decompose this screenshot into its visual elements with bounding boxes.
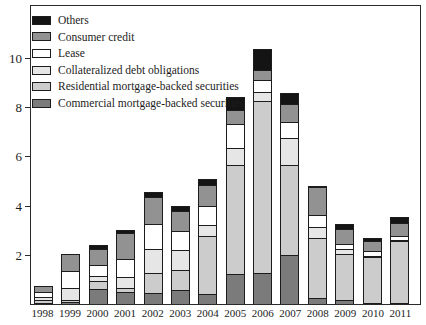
legend-swatch-icon (32, 16, 51, 25)
legend: OthersConsumer creditLeaseCollateralized… (32, 12, 244, 112)
bar-segment (390, 223, 409, 237)
bar-segment (144, 249, 163, 274)
bar-2008 (308, 186, 327, 304)
bar-segment (335, 254, 354, 301)
legend-item: Residential mortgage-backed securities (32, 78, 244, 95)
legend-label: Others (58, 14, 89, 27)
legend-label: Consumer credit (58, 31, 134, 44)
bar-segment (89, 249, 108, 265)
bar-2006 (253, 49, 272, 304)
y-tick-label: 6 (0, 150, 22, 163)
x-tick-label: 2010 (363, 307, 382, 319)
y-tick-mark (25, 255, 30, 256)
bar-segment (171, 211, 190, 232)
bar-segment (308, 215, 327, 226)
bar-segment (198, 236, 217, 294)
bar-segment (253, 92, 272, 101)
bar-segment (308, 298, 327, 304)
bar-2011 (390, 217, 409, 304)
bar-segment (198, 294, 217, 304)
bar-segment (61, 288, 80, 300)
bar-segment (34, 303, 53, 304)
bar-segment (253, 273, 272, 304)
legend-label: Commercial mortgage-backed securities (58, 97, 244, 110)
bar-segment (308, 187, 327, 215)
bar-2007 (280, 93, 299, 305)
legend-swatch-icon (32, 99, 51, 108)
y-tick-label: 4 (0, 200, 22, 213)
figure: OthersConsumer creditLeaseCollateralized… (0, 0, 426, 325)
bar-segment (253, 80, 272, 92)
x-tick-label: 2008 (308, 307, 327, 319)
legend-item: Collateralized debt obligations (32, 62, 244, 79)
x-axis: 1998199920002001200220032004200520062007… (30, 307, 421, 319)
bar-2002 (144, 192, 163, 304)
legend-label: Collateralized debt obligations (58, 64, 199, 77)
bar-segment (116, 277, 135, 288)
bar-segment (390, 241, 409, 303)
bar-segment (144, 224, 163, 249)
legend-swatch-icon (32, 82, 51, 91)
x-tick-label: 2009 (336, 307, 355, 319)
legend-swatch-icon (32, 49, 51, 58)
bar-segment (280, 122, 299, 138)
bar-segment (61, 302, 80, 304)
bar-segment (363, 241, 382, 251)
bar-segment (171, 290, 190, 304)
bar-2003 (171, 206, 190, 304)
bar-segment (226, 274, 245, 304)
bar-segment (253, 101, 272, 273)
legend-swatch-icon (32, 32, 51, 41)
bar-2004 (198, 179, 217, 304)
x-tick-label: 2001 (116, 307, 135, 319)
legend-item: Others (32, 12, 244, 29)
y-tick-mark (25, 107, 30, 108)
y-tick-label: 2 (0, 249, 22, 262)
bar-segment (226, 124, 245, 147)
bar-2001 (116, 230, 135, 304)
bar-segment (89, 289, 108, 304)
y-tick-label: 10 (0, 52, 22, 65)
bar-segment (226, 148, 245, 165)
bar-segment (280, 93, 299, 104)
bar-segment (226, 110, 245, 125)
x-tick-label: 2011 (391, 307, 410, 319)
bar-2010 (363, 238, 382, 304)
bar-segment (308, 227, 327, 238)
bar-segment (280, 138, 299, 165)
bar-segment (61, 271, 80, 288)
plot-area: OthersConsumer creditLeaseCollateralized… (30, 5, 421, 305)
bar-segment (144, 273, 163, 293)
bar-segment (144, 293, 163, 304)
x-tick-label: 2004 (198, 307, 217, 319)
bar-segment (280, 165, 299, 255)
x-tick-label: 2000 (88, 307, 107, 319)
bar-1999 (61, 254, 80, 304)
bar-segment (280, 255, 299, 304)
bar-segment (390, 303, 409, 304)
bar-segment (363, 257, 382, 303)
bar-segment (280, 104, 299, 122)
bar-segment (335, 229, 354, 244)
bar-segment (89, 281, 108, 290)
legend-item: Lease (32, 45, 244, 62)
y-tick-mark (25, 58, 30, 59)
x-tick-label: 2003 (171, 307, 190, 319)
x-tick-label: 2005 (226, 307, 245, 319)
bar-segment (198, 185, 217, 206)
y-tick-mark (25, 206, 30, 207)
bar-1998 (34, 286, 53, 304)
legend-item: Consumer credit (32, 29, 244, 46)
x-tick-label: 2006 (253, 307, 272, 319)
legend-label: Residential mortgage-backed securities (58, 80, 239, 93)
bar-segment (144, 197, 163, 224)
bar-segment (308, 238, 327, 298)
legend-swatch-icon (32, 66, 51, 75)
x-tick-label: 2007 (281, 307, 300, 319)
bar-segment (171, 231, 190, 249)
legend-item: Commercial mortgage-backed securities (32, 95, 244, 112)
bar-segment (363, 303, 382, 304)
bar-segment (116, 233, 135, 259)
bar-segment (171, 270, 190, 291)
bar-segment (61, 254, 80, 271)
